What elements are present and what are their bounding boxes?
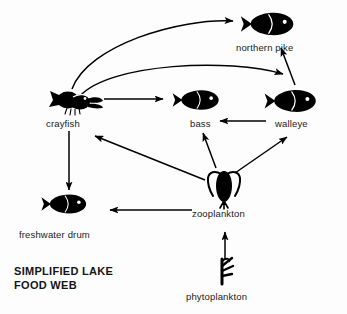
link-walleye-to-northern-pike bbox=[281, 48, 295, 85]
label-phytoplankton: phytoplankton bbox=[186, 291, 247, 302]
title-line-2: FOOD WEB bbox=[14, 278, 113, 292]
title-line-1: SIMPLIFIED LAKE bbox=[14, 264, 113, 278]
freshwater-drum-fish-icon bbox=[41, 194, 86, 213]
label-northern-pike: northern pike bbox=[236, 42, 293, 53]
bass-fish-icon bbox=[173, 90, 219, 110]
walleye-fish-icon bbox=[265, 90, 316, 112]
label-crayfish: crayfish bbox=[46, 118, 80, 129]
label-zooplankton: zooplankton bbox=[192, 208, 245, 219]
link-zooplankton-to-bass bbox=[203, 133, 216, 168]
link-zooplankton-to-crayfish bbox=[95, 136, 205, 180]
diagram-title: SIMPLIFIED LAKE FOOD WEB bbox=[14, 264, 113, 292]
crayfish-icon bbox=[49, 91, 103, 115]
label-walleye: walleye bbox=[275, 118, 308, 129]
link-crayfish-to-northern-pike bbox=[72, 21, 233, 89]
link-crayfish-to-walleye bbox=[80, 65, 283, 96]
links-layer bbox=[69, 21, 295, 260]
phytoplankton-icon bbox=[222, 258, 233, 284]
northern-pike-fish-icon bbox=[241, 13, 293, 35]
link-zooplankton-to-walleye bbox=[235, 137, 287, 173]
food-web-diagram: northern pike crayfish bass walleye zoop… bbox=[0, 0, 347, 314]
label-freshwater-drum: freshwater drum bbox=[19, 229, 90, 240]
label-bass: bass bbox=[190, 118, 211, 129]
zooplankton-icon bbox=[208, 171, 240, 209]
